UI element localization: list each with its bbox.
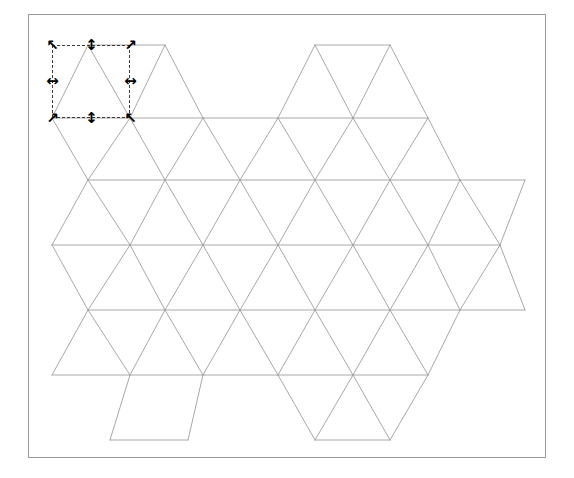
resize-ns-icon[interactable]: ↕ [83, 110, 100, 127]
selection-bounding-box[interactable] [52, 45, 130, 118]
application-root: ↖↕↗↔↔↗↕↖ [0, 0, 574, 478]
resize-ew-icon[interactable]: ↔ [44, 73, 61, 90]
resize-ew-icon[interactable]: ↔ [122, 73, 139, 90]
resize-nesw-icon[interactable]: ↗ [44, 110, 61, 127]
resize-nwse-icon[interactable]: ↖ [122, 110, 139, 127]
selection-layer: ↖↕↗↔↔↗↕↖ [0, 0, 574, 478]
resize-ns-icon[interactable]: ↕ [83, 37, 100, 54]
resize-nwse-icon[interactable]: ↖ [44, 37, 61, 54]
resize-nesw-icon[interactable]: ↗ [122, 37, 139, 54]
